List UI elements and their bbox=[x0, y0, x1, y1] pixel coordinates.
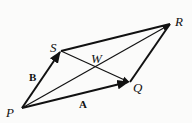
point-label-S: S bbox=[50, 41, 57, 54]
parallelogram-vector-diagram: P S R Q W B A bbox=[0, 0, 192, 123]
point-label-R: R bbox=[175, 15, 183, 28]
point-label-W: W bbox=[91, 52, 102, 65]
point-label-Q: Q bbox=[133, 81, 142, 94]
point-label-P: P bbox=[6, 106, 14, 119]
vector-label-A: A bbox=[79, 99, 87, 110]
vector-label-B: B bbox=[29, 72, 36, 83]
